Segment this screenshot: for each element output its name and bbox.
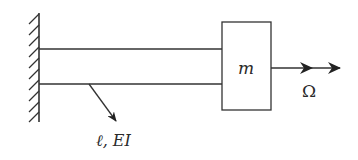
cantilever-diagram: m Ω ℓ, EI: [0, 0, 358, 160]
wall-hatching: [29, 14, 39, 122]
rotation-arrow-icon: [271, 62, 341, 74]
mass-label: m: [238, 58, 254, 78]
beam-label: ℓ, EI: [96, 131, 132, 150]
rotation-label: Ω: [302, 81, 316, 101]
beam: [39, 49, 222, 84]
beam-leader-arrow-icon: [89, 84, 116, 121]
fixed-wall: [29, 13, 39, 122]
